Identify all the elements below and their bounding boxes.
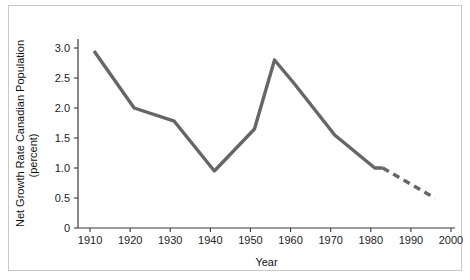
x-tick-label: 1960 xyxy=(278,234,302,246)
y-tick-label: 2.0 xyxy=(55,102,70,114)
y-axis-title-line2: (percent) xyxy=(27,133,39,177)
series-projected-line xyxy=(383,168,435,198)
chart-figure: 00.51.01.52.02.53.0 19101920193019401950… xyxy=(0,0,470,280)
x-tick-label: 1910 xyxy=(78,234,102,246)
axes: 00.51.01.52.02.53.0 19101920193019401950… xyxy=(55,39,464,246)
data-series xyxy=(94,51,435,198)
x-tick-label: 1930 xyxy=(158,234,182,246)
y-tick-label: 3.0 xyxy=(55,42,70,54)
x-tick-label: 1940 xyxy=(198,234,222,246)
x-tick-label: 2000 xyxy=(439,234,463,246)
x-axis-tick-labels: 1910192019301940195019601970198019902000 xyxy=(78,234,463,246)
y-tick-label: 2.5 xyxy=(55,72,70,84)
y-tick-label: 0 xyxy=(64,222,70,234)
y-axis-tick-labels: 00.51.01.52.02.53.0 xyxy=(55,42,70,234)
series-observed-line xyxy=(94,51,383,171)
x-tick-label: 1980 xyxy=(359,234,383,246)
x-tick-label: 1920 xyxy=(118,234,142,246)
x-tick-label: 1950 xyxy=(238,234,262,246)
x-tick-label: 1970 xyxy=(318,234,342,246)
y-tick-label: 1.0 xyxy=(55,162,70,174)
x-axis-title: Year xyxy=(255,256,278,268)
line-chart: 00.51.01.52.02.53.0 19101920193019401950… xyxy=(0,0,470,280)
x-tick-label: 1990 xyxy=(399,234,423,246)
y-tick-label: 0.5 xyxy=(55,192,70,204)
y-tick-label: 1.5 xyxy=(55,132,70,144)
x-axis-ticks xyxy=(90,228,451,232)
y-axis-title-line1: Net Growth Rate Canadian Population xyxy=(14,40,26,227)
